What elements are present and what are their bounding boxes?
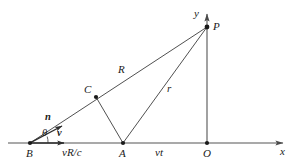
vector-label-v: v bbox=[57, 128, 62, 139]
x-axis-label: x bbox=[280, 146, 285, 157]
point-dot-P bbox=[205, 25, 210, 30]
point-dot-A bbox=[121, 141, 125, 145]
point-label-P: P bbox=[213, 21, 220, 32]
point-label-C: C bbox=[84, 84, 91, 95]
distance-label-vR-over-c: vR/c bbox=[62, 147, 82, 158]
point-label-B: B bbox=[26, 148, 33, 159]
angle-label-theta: θ bbox=[42, 128, 47, 139]
point-dot-B bbox=[28, 141, 32, 145]
vector-label-n: n bbox=[45, 112, 51, 123]
point-dot-C bbox=[94, 95, 98, 99]
segment-CA bbox=[96, 97, 123, 143]
point-label-O: O bbox=[203, 148, 211, 159]
point-dot-O bbox=[205, 141, 209, 145]
angle-theta-arc bbox=[47, 137, 48, 144]
segment-label-R: R bbox=[118, 64, 125, 75]
segment-AP bbox=[123, 27, 207, 143]
y-axis-label: y bbox=[194, 8, 199, 19]
point-label-A: A bbox=[119, 148, 126, 159]
segment-BP bbox=[30, 27, 207, 143]
distance-label-vt: vt bbox=[155, 147, 163, 158]
diagram-canvas bbox=[0, 0, 294, 168]
physics-diagram-figure: x y B A O C P R r n v θ vR/c vt bbox=[0, 0, 294, 168]
segment-label-r: r bbox=[167, 83, 171, 94]
